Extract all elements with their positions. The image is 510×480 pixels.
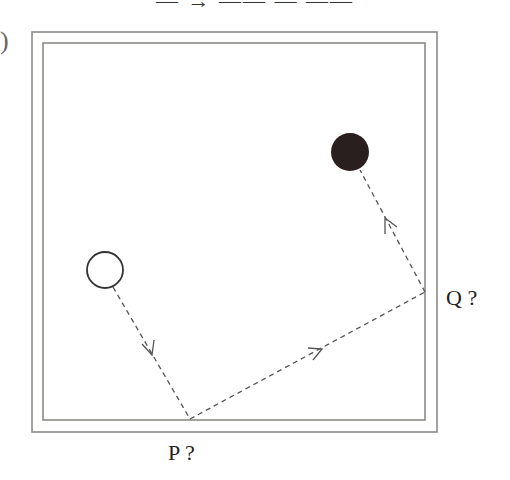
label-q: Q ? <box>446 285 477 311</box>
path-segment-3 <box>360 170 425 292</box>
ball-path <box>113 170 425 419</box>
table-outer-border <box>32 32 437 432</box>
label-p: P ? <box>168 440 195 466</box>
billiard-diagram <box>0 0 510 480</box>
path-segment-1 <box>113 287 190 419</box>
table-inner-border <box>43 43 425 420</box>
white-ball <box>87 252 123 288</box>
path-segment-2 <box>190 292 425 419</box>
black-ball <box>331 133 369 171</box>
arrow-icon <box>142 340 154 355</box>
